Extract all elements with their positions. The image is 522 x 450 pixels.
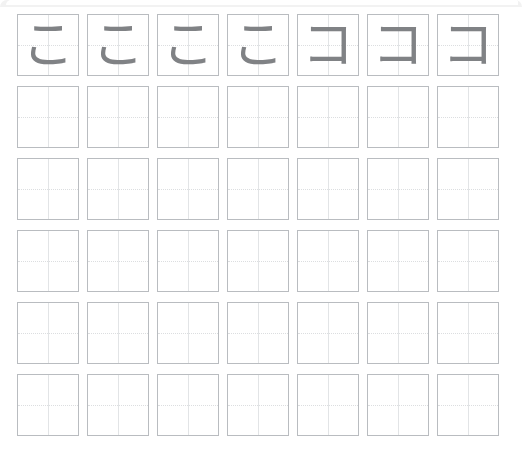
- cell-horizontal-guide-line: [18, 261, 78, 262]
- practice-cell-empty[interactable]: [157, 230, 219, 292]
- cell-horizontal-guide-line: [368, 333, 428, 334]
- practice-cell-empty[interactable]: [367, 374, 429, 436]
- cell-horizontal-guide-line: [438, 117, 498, 118]
- practice-cell-empty[interactable]: [367, 86, 429, 148]
- kana-glyph-katakana-ko: コ: [298, 15, 358, 75]
- cell-horizontal-guide-line: [18, 333, 78, 334]
- cell-horizontal-guide-line: [228, 189, 288, 190]
- cell-horizontal-guide-line: [18, 189, 78, 190]
- cell-horizontal-guide-line: [158, 405, 218, 406]
- practice-cell-filled[interactable]: こ: [227, 14, 289, 76]
- cell-horizontal-guide-line: [18, 405, 78, 406]
- practice-cell-filled[interactable]: こ: [17, 14, 79, 76]
- cell-horizontal-guide-line: [88, 117, 148, 118]
- practice-cell-empty[interactable]: [87, 86, 149, 148]
- practice-cell-empty[interactable]: [437, 374, 499, 436]
- practice-cell-empty[interactable]: [367, 230, 429, 292]
- cell-horizontal-guide-line: [158, 261, 218, 262]
- practice-cell-filled[interactable]: こ: [87, 14, 149, 76]
- cell-horizontal-guide-line: [368, 261, 428, 262]
- practice-cell-empty[interactable]: [297, 302, 359, 364]
- cell-horizontal-guide-line: [298, 189, 358, 190]
- practice-cell-empty[interactable]: [437, 230, 499, 292]
- kana-glyph-katakana-ko: コ: [438, 15, 498, 75]
- cell-horizontal-guide-line: [88, 261, 148, 262]
- cell-horizontal-guide-line: [158, 189, 218, 190]
- cell-horizontal-guide-line: [88, 333, 148, 334]
- cell-horizontal-guide-line: [228, 333, 288, 334]
- practice-cell-empty[interactable]: [437, 86, 499, 148]
- practice-cell-empty[interactable]: [87, 158, 149, 220]
- cell-horizontal-guide-line: [158, 117, 218, 118]
- practice-cell-empty[interactable]: [157, 158, 219, 220]
- kana-practice-worksheet: ここここコココ: [0, 0, 522, 450]
- practice-cell-empty[interactable]: [17, 374, 79, 436]
- practice-cell-empty[interactable]: [17, 230, 79, 292]
- practice-cell-empty[interactable]: [227, 230, 289, 292]
- practice-cell-empty[interactable]: [87, 374, 149, 436]
- practice-cell-filled[interactable]: こ: [157, 14, 219, 76]
- practice-cell-empty[interactable]: [87, 230, 149, 292]
- kana-glyph-hiragana-ko: こ: [18, 15, 78, 75]
- cell-horizontal-guide-line: [228, 261, 288, 262]
- cell-horizontal-guide-line: [438, 189, 498, 190]
- kana-glyph-hiragana-ko: こ: [158, 15, 218, 75]
- cell-horizontal-guide-line: [298, 261, 358, 262]
- cell-horizontal-guide-line: [88, 405, 148, 406]
- practice-cell-filled[interactable]: コ: [437, 14, 499, 76]
- cell-horizontal-guide-line: [368, 405, 428, 406]
- page-top-band-inner: [6, 0, 518, 5]
- practice-cell-empty[interactable]: [367, 158, 429, 220]
- cell-horizontal-guide-line: [228, 405, 288, 406]
- cell-horizontal-guide-line: [298, 117, 358, 118]
- practice-cell-filled[interactable]: コ: [367, 14, 429, 76]
- cell-horizontal-guide-line: [88, 189, 148, 190]
- practice-cell-empty[interactable]: [297, 158, 359, 220]
- practice-cell-filled[interactable]: コ: [297, 14, 359, 76]
- practice-cell-empty[interactable]: [437, 302, 499, 364]
- practice-cell-empty[interactable]: [157, 302, 219, 364]
- cell-horizontal-guide-line: [438, 405, 498, 406]
- practice-cell-empty[interactable]: [17, 302, 79, 364]
- practice-cell-empty[interactable]: [297, 86, 359, 148]
- practice-cell-empty[interactable]: [437, 158, 499, 220]
- practice-cell-empty[interactable]: [297, 374, 359, 436]
- practice-cell-empty[interactable]: [227, 374, 289, 436]
- cell-horizontal-guide-line: [438, 261, 498, 262]
- practice-cell-empty[interactable]: [227, 158, 289, 220]
- cell-horizontal-guide-line: [18, 117, 78, 118]
- cell-horizontal-guide-line: [228, 117, 288, 118]
- practice-cell-empty[interactable]: [17, 158, 79, 220]
- practice-cell-empty[interactable]: [17, 86, 79, 148]
- practice-cell-empty[interactable]: [227, 302, 289, 364]
- cell-horizontal-guide-line: [158, 333, 218, 334]
- practice-cell-empty[interactable]: [157, 86, 219, 148]
- cell-horizontal-guide-line: [298, 333, 358, 334]
- kana-glyph-hiragana-ko: こ: [88, 15, 148, 75]
- kana-glyph-katakana-ko: コ: [368, 15, 428, 75]
- cell-horizontal-guide-line: [298, 405, 358, 406]
- practice-cell-empty[interactable]: [87, 302, 149, 364]
- practice-cell-empty[interactable]: [157, 374, 219, 436]
- practice-cell-empty[interactable]: [227, 86, 289, 148]
- cell-horizontal-guide-line: [368, 189, 428, 190]
- practice-cell-empty[interactable]: [297, 230, 359, 292]
- page-top-band: [0, 0, 522, 7]
- kana-glyph-hiragana-ko: こ: [228, 15, 288, 75]
- practice-cell-empty[interactable]: [367, 302, 429, 364]
- cell-horizontal-guide-line: [438, 333, 498, 334]
- practice-grid: ここここコココ: [17, 14, 499, 436]
- cell-horizontal-guide-line: [368, 117, 428, 118]
